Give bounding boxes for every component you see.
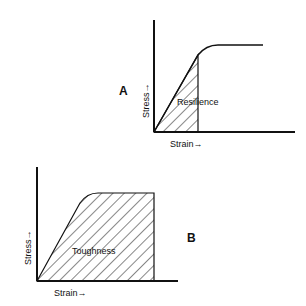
y-axis-label-b: Stress→	[23, 230, 33, 265]
diagram-canvas: Resilience Strain→ Stress→ A Toughness S…	[0, 0, 306, 306]
panel-label-a: A	[119, 84, 128, 98]
toughness-shaded-area	[37, 193, 154, 281]
region-label-a: Resilience	[177, 97, 219, 107]
diagram-b: Toughness Strain→ Stress→ B	[23, 167, 196, 298]
panel-label-b: B	[187, 231, 196, 245]
diagram-a: Resilience Strain→ Stress→ A	[119, 20, 295, 149]
region-label-b: Toughness	[72, 246, 116, 256]
x-axis-label-b: Strain→	[54, 288, 87, 298]
y-axis-label-a: Stress→	[141, 83, 151, 118]
x-axis-label-a: Strain→	[170, 139, 203, 149]
